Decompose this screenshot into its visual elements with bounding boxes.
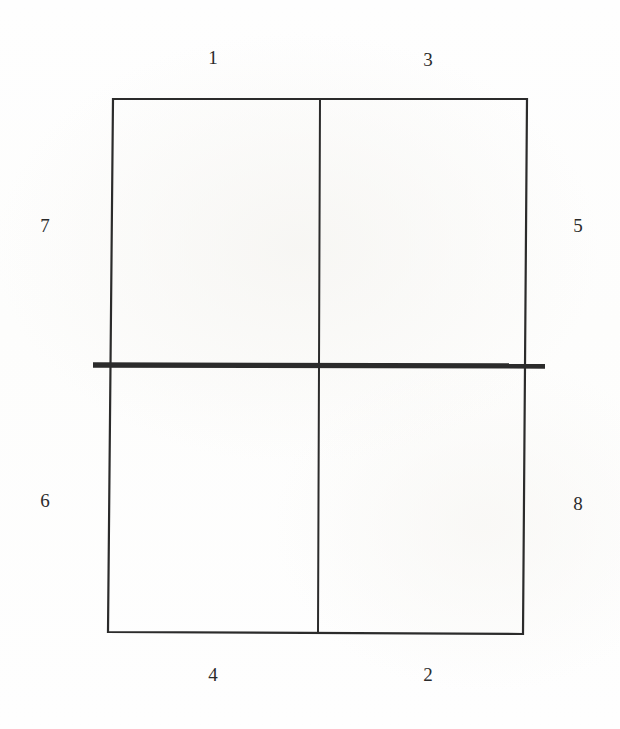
edge-label-2: 2 xyxy=(423,665,433,684)
edge-label-8: 8 xyxy=(573,494,583,513)
figure-page: 1 3 7 5 6 8 4 2 xyxy=(0,0,620,729)
edge-label-1: 1 xyxy=(208,48,218,67)
edge-label-6: 6 xyxy=(40,491,50,510)
thick-horizontal-line xyxy=(93,365,545,366)
edge-label-5: 5 xyxy=(573,216,583,235)
edge-label-4: 4 xyxy=(208,665,218,684)
edge-label-7: 7 xyxy=(40,216,50,235)
edge-label-3: 3 xyxy=(423,50,433,69)
quadrant-diagram xyxy=(0,0,620,729)
